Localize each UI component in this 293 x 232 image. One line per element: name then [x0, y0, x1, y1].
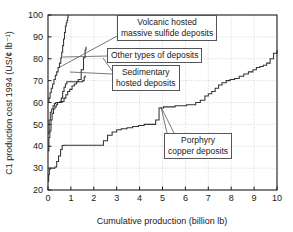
- svg-text:70: 70: [33, 76, 43, 86]
- callout-sedimentary-line2: hosted deposits: [116, 78, 176, 89]
- callout-sedimentary-line1: Sedimentary: [116, 67, 176, 78]
- svg-text:20: 20: [33, 185, 43, 195]
- y-axis-title: C1 production cost 1994 (US/¢ lb⁻¹): [4, 31, 14, 175]
- x-axis-ticks: 012345678910: [45, 187, 282, 204]
- svg-text:80: 80: [33, 54, 43, 64]
- svg-text:4: 4: [137, 193, 142, 203]
- chart-figure: 2030405060708090100 012345678910 C1 prod…: [0, 0, 293, 232]
- callout-volcanic-line2: massive sulfide deposits: [121, 28, 213, 39]
- callout-other-line1: Other types of deposits: [111, 50, 198, 61]
- leader-line-1: [63, 56, 107, 57]
- leader-line-5: [161, 107, 174, 133]
- svg-text:10: 10: [272, 193, 282, 203]
- leader-line-2: [70, 72, 112, 74]
- svg-text:6: 6: [183, 193, 188, 203]
- leader-line-4: [161, 107, 167, 133]
- svg-text:40: 40: [33, 141, 43, 151]
- svg-text:5: 5: [160, 193, 165, 203]
- callout-volcanic-line1: Volcanic hosted: [121, 17, 213, 28]
- svg-text:7: 7: [206, 193, 211, 203]
- series-line-2: [48, 47, 86, 133]
- series-line-1: [48, 75, 85, 150]
- svg-text:50: 50: [33, 120, 43, 130]
- svg-text:90: 90: [33, 32, 43, 42]
- svg-text:3: 3: [114, 193, 119, 203]
- x-axis-title: Cumulative production (billion lb): [97, 216, 228, 226]
- svg-text:0: 0: [45, 193, 50, 203]
- callout-porphyry-line2: copper deposits: [168, 146, 228, 157]
- svg-text:1: 1: [68, 193, 73, 203]
- callout-sedimentary-hosted[interactable]: Sedimentary hosted deposits: [112, 65, 180, 91]
- svg-text:9: 9: [252, 193, 257, 203]
- svg-text:60: 60: [33, 98, 43, 108]
- callout-porphyry-copper[interactable]: Porphyry copper deposits: [164, 133, 232, 159]
- svg-text:30: 30: [33, 163, 43, 173]
- svg-text:100: 100: [28, 10, 43, 20]
- callout-porphyry-line1: Porphyry: [168, 135, 228, 146]
- svg-text:8: 8: [229, 193, 234, 203]
- callout-volcanic-hosted[interactable]: Volcanic hosted massive sulfide deposits: [117, 15, 217, 41]
- callout-other-types[interactable]: Other types of deposits: [107, 48, 202, 63]
- gridlines: [48, 15, 277, 190]
- svg-text:2: 2: [91, 193, 96, 203]
